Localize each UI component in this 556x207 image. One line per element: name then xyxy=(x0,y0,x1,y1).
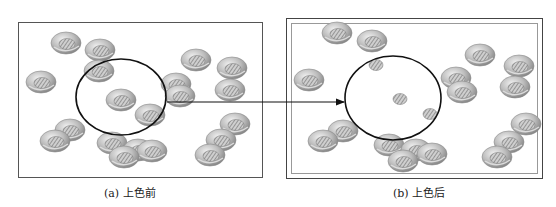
nuts-before xyxy=(26,32,250,168)
caption-after: (b) 上色后 xyxy=(393,184,445,200)
caption-before: (a) 上色前 xyxy=(104,184,156,200)
figure-graphics xyxy=(0,0,556,207)
nuts-after xyxy=(294,22,541,172)
